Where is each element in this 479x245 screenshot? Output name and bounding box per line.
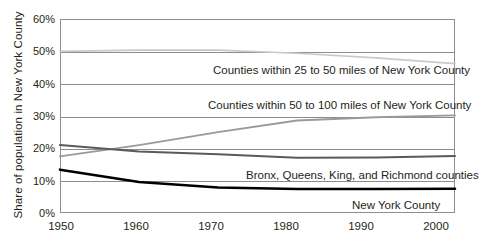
x-tick-label-2000: 2000 bbox=[406, 220, 466, 232]
annotation-counties-25-50: Counties within 25 to 50 miles of New Yo… bbox=[213, 64, 470, 77]
x-tick-label-1960: 1960 bbox=[106, 220, 166, 232]
x-tick-label-1990: 1990 bbox=[331, 220, 391, 232]
x-tick-label-1970: 1970 bbox=[181, 220, 241, 232]
x-tick-label-1950: 1950 bbox=[31, 220, 91, 232]
annotation-bronx-queens-king-richmond: Bronx, Queens, King, and Richmond counti… bbox=[246, 169, 479, 182]
x-tick-label-1980: 1980 bbox=[256, 220, 316, 232]
annotation-new-york-county: New York County bbox=[352, 199, 440, 212]
annotation-counties-50-100: Counties within 50 to 100 miles of New Y… bbox=[208, 99, 471, 112]
series-line-counties-25-50 bbox=[60, 50, 455, 64]
